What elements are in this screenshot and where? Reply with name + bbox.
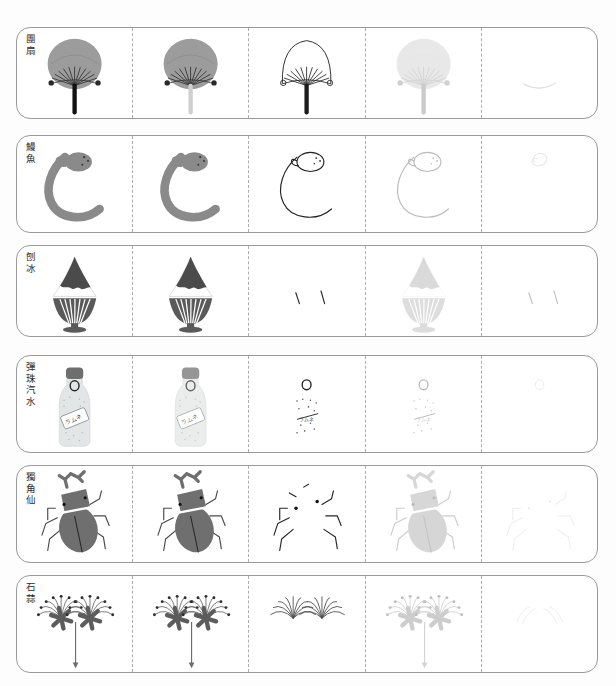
illustration-round-fan-stage-3: [249, 28, 364, 118]
row-cells: 刨冰: [17, 246, 597, 336]
trace-cell-ramune-hint[interactable]: [481, 356, 597, 452]
row-cells: 石蒜: [17, 576, 597, 672]
trace-cell-round-fan-full-color[interactable]: 團扇: [17, 28, 132, 118]
trace-cell-round-fan-ghost[interactable]: [365, 28, 481, 118]
row-cells: 鰻魚: [17, 136, 597, 232]
illustration-rhinoceros-beetle-stage-5: [482, 466, 597, 562]
illustration-shaved-ice-stage-3: [249, 246, 364, 336]
trace-cell-round-fan-outline-only[interactable]: [248, 28, 364, 118]
worksheet-sheet: 團扇 鰻魚 刨冰 ラムネ彈珠汽水ラムネラムネラムネ獨角仙石蒜: [0, 0, 616, 686]
trace-cell-spider-lily-outline-only[interactable]: [248, 576, 364, 672]
row-label-ramune: 彈珠汽水: [23, 361, 39, 407]
worksheet-row-rhinoceros-beetle: 獨角仙: [16, 465, 598, 563]
illustration-eel-stage-5: [482, 136, 597, 232]
trace-cell-spider-lily-hint[interactable]: [481, 576, 597, 672]
trace-cell-eel-outline-only[interactable]: [248, 136, 364, 232]
illustration-rhinoceros-beetle-stage-3: [249, 466, 364, 562]
trace-cell-eel-hint[interactable]: [481, 136, 597, 232]
worksheet-row-eel: 鰻魚: [16, 135, 598, 233]
trace-cell-shaved-ice-color-2[interactable]: [132, 246, 248, 336]
row-cells: ラムネ彈珠汽水ラムネラムネラムネ: [17, 356, 597, 452]
trace-cell-shaved-ice-hint[interactable]: [481, 246, 597, 336]
illustration-rhinoceros-beetle-stage-4: [366, 466, 481, 562]
trace-cell-rhinoceros-beetle-hint[interactable]: [481, 466, 597, 562]
trace-cell-ramune-full-color[interactable]: ラムネ彈珠汽水: [17, 356, 132, 452]
trace-cell-eel-ghost[interactable]: [365, 136, 481, 232]
trace-cell-round-fan-hint[interactable]: [481, 28, 597, 118]
row-label-rhinoceros-beetle: 獨角仙: [23, 471, 39, 506]
trace-cell-rhinoceros-beetle-color-2[interactable]: [132, 466, 248, 562]
illustration-rhinoceros-beetle-stage-2: [133, 466, 248, 562]
worksheet-row-shaved-ice: 刨冰: [16, 245, 598, 337]
trace-cell-ramune-marble-outline[interactable]: ラムネ: [248, 356, 364, 452]
illustration-spider-lily-stage-2: [133, 576, 248, 672]
worksheet-row-ramune: ラムネ彈珠汽水ラムネラムネラムネ: [16, 355, 598, 453]
trace-cell-eel-full-color[interactable]: 鰻魚: [17, 136, 132, 232]
trace-cell-round-fan-color-faded-handle[interactable]: [132, 28, 248, 118]
illustration-ramune-stage-5: [482, 356, 597, 452]
trace-cell-rhinoceros-beetle-ghost[interactable]: [365, 466, 481, 562]
trace-cell-spider-lily-color-2[interactable]: [132, 576, 248, 672]
illustration-shaved-ice-stage-5: [482, 246, 597, 336]
illustration-shaved-ice-stage-4: [366, 246, 481, 336]
illustration-round-fan-stage-4: [366, 28, 481, 118]
illustration-spider-lily-stage-3: [249, 576, 364, 672]
trace-cell-shaved-ice-fragments[interactable]: [248, 246, 364, 336]
trace-cell-rhinoceros-beetle-outline-only[interactable]: [248, 466, 364, 562]
trace-cell-shaved-ice-ghost[interactable]: [365, 246, 481, 336]
illustration-ramune-stage-3: ラムネ: [249, 356, 364, 452]
row-label-shaved-ice: 刨冰: [23, 251, 39, 274]
illustration-ramune-stage-2: ラムネ: [133, 356, 248, 452]
trace-cell-eel-color-2[interactable]: [132, 136, 248, 232]
worksheet-row-spider-lily: 石蒜: [16, 575, 598, 673]
illustration-round-fan-stage-2: [133, 28, 248, 118]
illustration-round-fan-stage-5: [482, 28, 597, 118]
illustration-eel-stage-4: [366, 136, 481, 232]
row-cells: 團扇: [17, 28, 597, 118]
row-label-eel: 鰻魚: [23, 141, 39, 164]
trace-cell-spider-lily-ghost[interactable]: [365, 576, 481, 672]
illustration-eel-stage-3: [249, 136, 364, 232]
svg-text:ラムネ: ラムネ: [299, 417, 314, 423]
trace-cell-shaved-ice-full-color[interactable]: 刨冰: [17, 246, 132, 336]
trace-cell-rhinoceros-beetle-full-color[interactable]: 獨角仙: [17, 466, 132, 562]
illustration-spider-lily-stage-4: [366, 576, 481, 672]
row-label-spider-lily: 石蒜: [23, 581, 39, 604]
svg-text:ラムネ: ラムネ: [416, 417, 431, 423]
illustration-eel-stage-2: [133, 136, 248, 232]
row-cells: 獨角仙: [17, 466, 597, 562]
worksheet-row-round-fan: 團扇: [16, 27, 598, 119]
illustration-spider-lily-stage-5: [482, 576, 597, 672]
illustration-shaved-ice-stage-2: [133, 246, 248, 336]
trace-cell-ramune-ghost[interactable]: ラムネ: [365, 356, 481, 452]
illustration-ramune-stage-4: ラムネ: [366, 356, 481, 452]
row-label-round-fan: 團扇: [23, 33, 39, 56]
trace-cell-ramune-color-2[interactable]: ラムネ: [132, 356, 248, 452]
trace-cell-spider-lily-full-color[interactable]: 石蒜: [17, 576, 132, 672]
